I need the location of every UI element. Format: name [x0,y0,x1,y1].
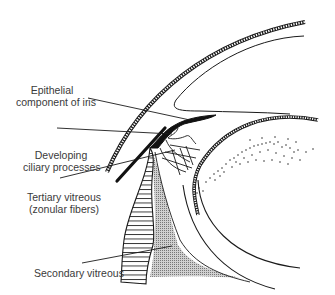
label-line: Developing [23,149,99,161]
label-tertiary-vitreous: Tertiary vitreous (zonular fibers) [24,191,104,215]
label-line: Secondary vitreous [34,267,116,279]
leader-ciliary-processes [57,128,172,134]
label-line: Epithelial [16,84,88,96]
anterior-chamber-line [174,36,304,114]
lens-capsule [194,117,318,215]
secondary-vitreous-region [150,150,240,278]
hatched-vitreous-column [121,148,154,284]
label-ciliary-processes: Developing ciliary processes [23,149,99,173]
lens-nuclei-dots [194,136,314,194]
lens-outline [198,180,300,268]
label-line: (zonular fibers) [24,203,104,215]
label-secondary-vitreous: Secondary vitreous [34,267,116,279]
outer-cornea-layer [107,22,305,172]
eye-development-diagram [0,0,335,295]
label-line: component of iris [16,96,88,108]
label-epithelial-iris: Epithelial component of iris [16,84,88,108]
label-line: ciliary processes [23,161,99,173]
label-line: Tertiary vitreous [24,191,104,203]
